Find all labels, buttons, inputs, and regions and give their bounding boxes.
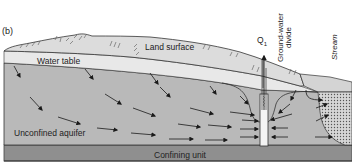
well-label: Q1 [257,36,267,47]
groundwater-diagram [0,0,352,167]
groundwater-divide-label: Ground-water divide [277,13,294,62]
panel-label: (b) [2,27,13,36]
well-label-text: Q [257,35,264,45]
unconfined-aquifer-label: Unconfined aquifer [14,129,85,138]
confining-unit-label: Confining unit [154,151,206,160]
well-label-subscript: 1 [264,41,267,47]
stream-label: Stream [331,34,339,60]
groundwater-divide-line2: divide [284,27,293,48]
water-table-label: Water table [37,57,80,66]
land-surface-label: Land surface [145,43,194,52]
